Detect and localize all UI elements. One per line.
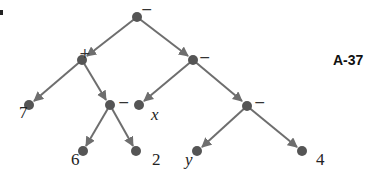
label-root-op: − (141, 1, 153, 17)
edge-plus-minus (82, 60, 106, 100)
edge-plus-7 (34, 60, 82, 101)
tree-edges (34, 17, 297, 147)
edge-root-minus (137, 17, 188, 56)
figure-tag: A-37 (333, 52, 364, 68)
edge-minus-2 (110, 105, 133, 146)
label-plus-op: + (79, 45, 91, 61)
label-minus-left-inner-op: − (118, 94, 130, 110)
label-leaf-7: 7 (19, 103, 28, 122)
node-leaf-6 (78, 146, 88, 156)
label-minus-right-op: − (199, 49, 211, 65)
edge-root-plus (87, 17, 137, 56)
edge-minus-4 (247, 106, 297, 147)
node-leaf-x (134, 100, 144, 110)
node-minus-right (188, 55, 198, 65)
node-minus-left-inner (105, 100, 115, 110)
edge-minus-minus (193, 60, 242, 101)
label-leaf-4: 4 (316, 150, 325, 169)
label-leaf-x: x (150, 105, 159, 124)
edge-minus-x (144, 60, 193, 101)
edge-minus-6 (86, 105, 110, 146)
edge-minus-y (202, 106, 247, 147)
label-leaf-y: y (183, 150, 193, 169)
expression-tree: − + − − − 7 x 6 2 y 4 A-37 (0, 0, 372, 185)
node-leaf-4 (297, 146, 307, 156)
node-minus-right-inner (242, 101, 252, 111)
label-minus-right-inner-op: − (254, 94, 266, 110)
label-leaf-2: 2 (152, 150, 161, 169)
label-leaf-6: 6 (71, 150, 80, 169)
node-leaf-y (192, 146, 202, 156)
margin-marker (0, 10, 3, 15)
node-leaf-2 (131, 146, 141, 156)
